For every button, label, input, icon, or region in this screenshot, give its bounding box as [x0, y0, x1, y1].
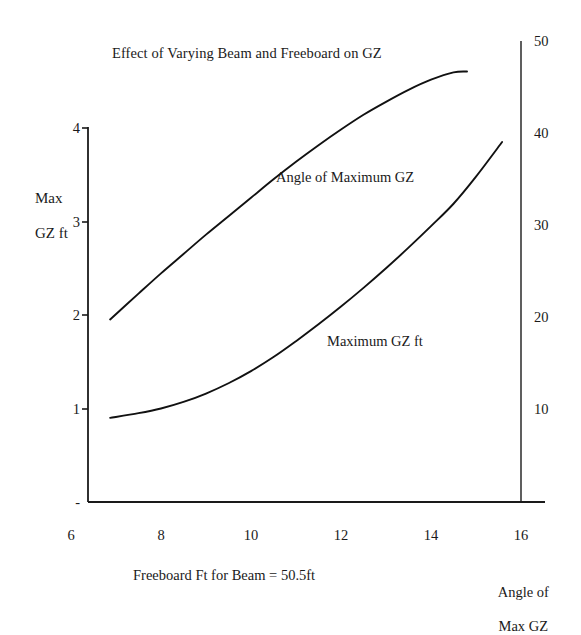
curve-maximum-gz: [110, 142, 502, 418]
curve-angle-of-maximum-gz: [110, 71, 467, 319]
